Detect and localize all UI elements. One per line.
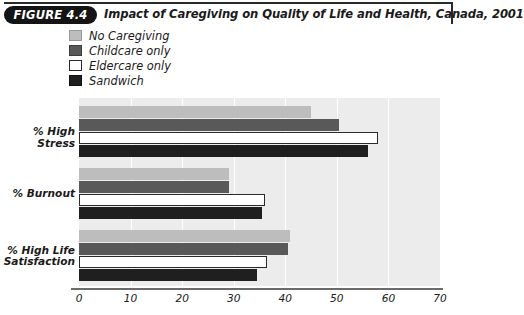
legend-swatch	[69, 45, 82, 56]
bar	[79, 145, 368, 157]
legend-swatch	[69, 60, 82, 71]
legend-item-label: Childcare only	[89, 44, 170, 58]
bar	[79, 168, 229, 180]
category-label: % Burnout	[1, 188, 75, 200]
bar	[79, 181, 229, 193]
figure-number-badge: FIGURE 4.4	[4, 6, 97, 24]
figure-header: FIGURE 4.4 Impact of Caregiving on Quali…	[0, 2, 457, 28]
bar	[79, 119, 339, 131]
bar	[79, 256, 267, 268]
figure-title: Impact of Caregiving on Quality of Life …	[104, 7, 524, 21]
category-label: % High Stress	[1, 126, 75, 149]
x-tick-label: 40	[270, 292, 300, 304]
x-tick-label: 30	[219, 292, 249, 304]
bar	[79, 106, 311, 118]
bar	[79, 230, 290, 242]
x-axis-line	[71, 288, 443, 290]
legend-item: Eldercare only	[69, 58, 289, 73]
x-tick-label: 0	[64, 292, 94, 304]
legend-item: Childcare only	[69, 43, 289, 58]
bar	[79, 132, 378, 144]
plot-area	[79, 98, 440, 286]
bar	[79, 243, 288, 255]
legend-item-label: Eldercare only	[89, 59, 171, 73]
category-label-line: % High Stress	[1, 126, 75, 149]
category-label-line: % Burnout	[1, 188, 75, 200]
x-tick-label: 10	[116, 292, 146, 304]
legend-item-label: Sandwich	[89, 74, 144, 88]
chart-legend: No CaregivingChildcare onlyEldercare onl…	[69, 28, 289, 88]
gridline	[440, 98, 441, 286]
legend-swatch	[69, 75, 82, 86]
legend-item-label: No Caregiving	[89, 29, 170, 43]
legend-item: Sandwich	[69, 73, 289, 88]
x-tick-label: 70	[425, 292, 455, 304]
x-tick-label: 60	[373, 292, 403, 304]
category-label: % High LifeSatisfaction	[1, 245, 75, 268]
x-axis-tick-labels: 010203040506070	[0, 292, 457, 310]
category-label-line: Satisfaction	[1, 256, 75, 268]
bar	[79, 194, 265, 206]
category-axis-labels: % High Stress% Burnout% High LifeSatisfa…	[0, 98, 75, 286]
x-tick-label: 20	[167, 292, 197, 304]
legend-item: No Caregiving	[69, 28, 289, 43]
bar-group	[79, 230, 440, 282]
bar	[79, 269, 257, 281]
bar	[79, 207, 262, 219]
legend-swatch	[69, 30, 82, 41]
x-tick-label: 50	[322, 292, 352, 304]
bar-group	[79, 168, 440, 220]
bar-group	[79, 106, 440, 158]
